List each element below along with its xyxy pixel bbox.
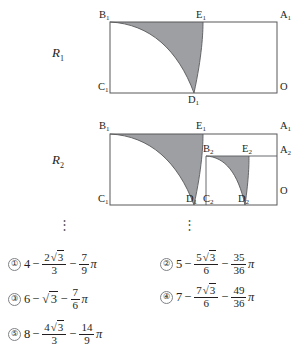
figure-r2-graphic [0, 128, 306, 208]
choice-2-t2-num: 35 [231, 252, 246, 265]
point-label-r2-a1: A1 [280, 121, 291, 133]
choice-4-pi-symbol: π [248, 290, 254, 305]
choice-5-pi-symbol: π [96, 327, 102, 342]
choice-expression-1: 4 − 2√3 3 − 7 9 π [24, 252, 97, 276]
choice-3-t2-num: 7 [71, 287, 81, 300]
sqrt-icon: √3 [202, 285, 217, 296]
choice-3-pi-fraction: 7 6 [71, 287, 81, 311]
choice-4-integer: 7 [176, 290, 182, 305]
choice-marker-4: ④ [160, 291, 173, 304]
point-label-r2-e1: E1 [196, 121, 206, 133]
choice-5-op1: − [32, 327, 39, 342]
choice-2-t1-radicand: 3 [209, 250, 217, 263]
point-label-r2-c2: C2 [203, 194, 214, 206]
point-label-r2-d2: D2 [238, 194, 249, 206]
choice-5-pi-fraction: 14 9 [79, 322, 94, 345]
choice-3-t2-den: 6 [73, 300, 79, 312]
shaded-region-r1 [110, 22, 203, 93]
answer-choice-1[interactable]: ① 4 − 2√3 3 − 7 9 π [8, 252, 97, 276]
choice-5-t2-den: 9 [84, 335, 90, 345]
choice-2-op1: − [184, 257, 191, 272]
point-label-r2-o: O [280, 186, 288, 198]
choice-2-pi-fraction: 35 36 [231, 252, 246, 276]
choice-3-integer: 6 [24, 292, 30, 307]
choice-expression-2: 5 − 5√3 6 − 35 36 π [176, 252, 254, 276]
choice-1-t1-radicand: 3 [57, 250, 65, 263]
choice-4-t1-radicand: 3 [209, 283, 217, 296]
choice-3-op1: − [32, 292, 39, 307]
sqrt-icon: √3 [50, 322, 65, 333]
choice-1-pi-fraction: 7 9 [79, 252, 89, 276]
answer-choices: ① 4 − 2√3 3 − 7 9 π ② 5 − [0, 246, 306, 345]
choice-5-radical-fraction: 4√3 3 [42, 322, 66, 345]
sqrt-icon: √3 [50, 252, 65, 263]
choice-1-t2-num: 7 [79, 252, 89, 265]
point-label-r1-b1: B1 [99, 10, 110, 22]
choice-1-op2: − [69, 257, 76, 272]
choice-expression-3: 6 − √3 − 7 6 π [24, 287, 88, 311]
choice-2-op2: − [221, 257, 228, 272]
answer-choice-4[interactable]: ④ 7 − 7√3 6 − 49 36 π [160, 285, 254, 309]
figure-page: R1 B1 E1 A1 C1 D1 O R2 B1 [0, 0, 306, 345]
choice-1-pi-symbol: π [90, 257, 96, 272]
figure-label-r1: R1 [52, 45, 64, 63]
choice-1-radical-fraction: 2√3 3 [42, 252, 66, 276]
figure-r1-graphic [0, 0, 306, 110]
ellipsis-left: ⋮ [58, 218, 71, 231]
choice-2-t1-den: 6 [204, 265, 210, 277]
choice-4-op2: − [221, 290, 228, 305]
choice-3-pi-symbol: π [82, 292, 88, 307]
sqrt-icon: √3 [41, 292, 58, 307]
choice-5-t2-num: 14 [79, 322, 94, 335]
choice-2-pi-symbol: π [248, 257, 254, 272]
choice-marker-2: ② [160, 258, 173, 271]
choice-4-pi-fraction: 49 36 [231, 285, 246, 309]
sqrt-icon: √3 [202, 252, 217, 263]
choice-2-radical-fraction: 5√3 6 [194, 252, 218, 276]
point-label-r2-b1: B1 [99, 121, 110, 133]
point-label-r1-a1: A1 [280, 10, 291, 22]
choice-4-t2-num: 49 [231, 285, 246, 298]
choice-5-t1-radicand: 3 [57, 320, 65, 333]
answer-choice-2[interactable]: ② 5 − 5√3 6 − 35 36 π [160, 252, 254, 276]
figure-label-r2: R2 [52, 152, 64, 170]
choice-5-integer: 8 [24, 327, 30, 342]
choice-3-op2: − [60, 292, 67, 307]
choice-marker-3: ③ [8, 293, 21, 306]
choice-marker-5: ⑤ [8, 328, 21, 341]
choice-5-op2: − [69, 327, 76, 342]
point-label-r2-a2: A2 [280, 145, 291, 157]
point-label-r1-e1: E1 [196, 10, 206, 22]
point-label-r2-e2: E2 [242, 144, 252, 156]
choice-4-t2-den: 36 [233, 298, 244, 310]
point-label-r1-d1: D1 [188, 95, 199, 107]
choice-2-integer: 5 [176, 257, 182, 272]
choice-expression-5: 8 − 4√3 3 − 14 9 π [24, 322, 102, 345]
answer-choice-5[interactable]: ⑤ 8 − 4√3 3 − 14 9 π [8, 322, 102, 345]
point-label-r2-b2: B2 [203, 144, 214, 156]
ellipsis-right: ⋮ [183, 218, 196, 231]
answer-choice-3[interactable]: ③ 6 − √3 − 7 6 π [8, 287, 88, 311]
choice-2-t2-den: 36 [233, 265, 244, 277]
choice-1-t1-den: 3 [52, 265, 58, 277]
choice-5-t1-den: 3 [52, 335, 58, 345]
choice-3-t1-radicand: 3 [49, 291, 58, 306]
point-label-r2-d1: D1 [186, 194, 197, 206]
choice-expression-4: 7 − 7√3 6 − 49 36 π [176, 285, 254, 309]
choice-1-op1: − [32, 257, 39, 272]
choice-marker-1: ① [8, 258, 21, 271]
point-label-r1-o: O [280, 82, 288, 94]
choice-1-integer: 4 [24, 257, 30, 272]
point-label-r2-c1: C1 [98, 194, 109, 206]
choice-4-op1: − [184, 290, 191, 305]
choice-1-t2-den: 9 [81, 265, 87, 277]
choice-4-t1-den: 6 [204, 298, 210, 310]
choice-4-radical-fraction: 7√3 6 [194, 285, 218, 309]
point-label-r1-c1: C1 [98, 82, 109, 94]
